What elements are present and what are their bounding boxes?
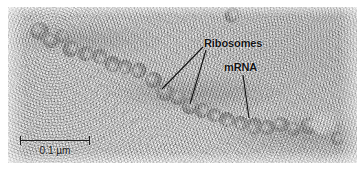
scale-bar	[20, 136, 90, 145]
label-ribosomes: Ribosomes	[204, 37, 262, 49]
figure-container: Ribosomes mRNA 0.1 µm	[0, 0, 362, 169]
leader-line-mrna-strand	[243, 75, 249, 118]
scale-bar-label: 0.1 µm	[20, 145, 90, 156]
label-mrna: mRNA	[224, 61, 257, 73]
scale-bar-cap-right	[89, 136, 90, 145]
scale-bar-rule	[20, 140, 90, 141]
